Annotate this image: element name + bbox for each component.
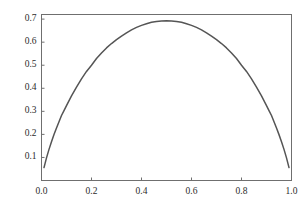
x-tick-label: 0.0 bbox=[36, 187, 48, 197]
y-tick-label: 0.7 bbox=[6, 14, 37, 24]
chart-figure: 0.10.20.30.40.50.60.7 0.00.20.40.60.81.0 bbox=[0, 0, 308, 209]
y-tick-label: 0.2 bbox=[6, 130, 37, 140]
x-tick-label: 0.8 bbox=[236, 187, 248, 197]
y-tick-label: 0.4 bbox=[6, 84, 37, 94]
y-tick-label: 0.6 bbox=[6, 37, 37, 47]
y-tick-label: 0.3 bbox=[6, 107, 37, 117]
x-tick-label: 0.2 bbox=[86, 187, 98, 197]
plot-frame bbox=[42, 15, 292, 181]
plot-canvas bbox=[0, 0, 308, 209]
tick-marks bbox=[42, 19, 292, 180]
y-tick-label: 0.5 bbox=[6, 60, 37, 70]
x-tick-label: 0.4 bbox=[136, 187, 148, 197]
series-line-0 bbox=[44, 21, 289, 168]
y-tick-label: 0.1 bbox=[6, 153, 37, 163]
x-tick-label: 1.0 bbox=[286, 187, 298, 197]
x-tick-label: 0.6 bbox=[186, 187, 198, 197]
